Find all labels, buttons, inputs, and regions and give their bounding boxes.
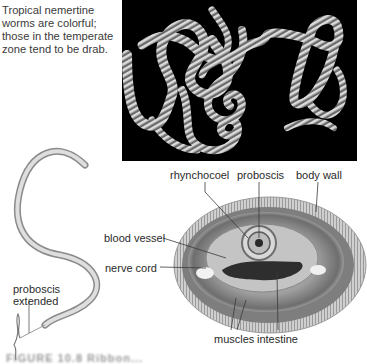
proboscis-thread [20,325,45,338]
label-intestine: intestine [257,333,298,345]
label-rhynchocoel: rhynchocoel [170,169,229,181]
label-proboscis-extended-2: extended [13,295,58,307]
label-body-wall: body wall [296,169,342,181]
label-muscles: muscles [214,333,254,345]
label-proboscis: proboscis [237,169,284,181]
label-proboscis-extended-1: proboscis [13,283,60,295]
worm-body [14,151,97,360]
label-blood-vessel: blood vessel [104,232,165,244]
figure-caption: FIGURE 10.8 Ribbon... [6,352,143,364]
cross-section [174,197,366,333]
label-nerve-cord: nerve cord [105,262,157,274]
